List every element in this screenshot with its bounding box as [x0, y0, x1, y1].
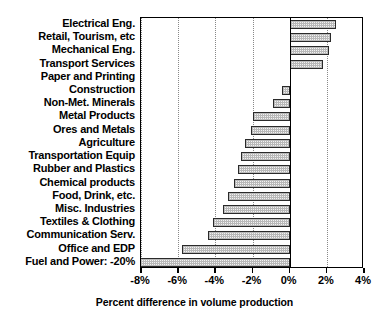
- x-tick-label: 0%: [269, 274, 309, 286]
- bar: [290, 20, 336, 29]
- bar-row: [141, 216, 362, 229]
- bar-row: [141, 256, 362, 267]
- bar-row: [141, 58, 362, 71]
- bar-row: [141, 243, 362, 256]
- category-label: Communication Serv.: [27, 228, 135, 241]
- x-tick-label: -4%: [194, 274, 234, 286]
- category-label: Chemical products: [39, 176, 135, 189]
- bar: [282, 86, 289, 95]
- bar-row: [141, 31, 362, 44]
- bar: [241, 152, 289, 161]
- x-tick-label: -2%: [232, 274, 272, 286]
- bar-row: [141, 190, 362, 203]
- bar-row: [141, 44, 362, 57]
- bar: [234, 179, 290, 188]
- bar: [223, 205, 290, 214]
- bar-row: [141, 71, 362, 84]
- bar: [290, 60, 323, 69]
- bar-row: [141, 177, 362, 190]
- bar: [273, 99, 290, 108]
- category-label: Transport Services: [40, 57, 135, 70]
- bar: [290, 33, 331, 42]
- bar-row: [141, 163, 362, 176]
- bar: [182, 245, 290, 254]
- category-label: Textiles & Clothing: [40, 215, 135, 228]
- category-label: Food, Drink, etc.: [52, 189, 135, 202]
- category-label: Fuel and Power: -20%: [25, 255, 135, 268]
- x-tick-label: 2%: [306, 274, 346, 286]
- x-tick-label: 4%: [343, 274, 383, 286]
- zero-axis-line: [290, 18, 292, 267]
- plot-area: [140, 17, 363, 268]
- category-label: Office and EDP: [58, 242, 135, 255]
- x-tick-mark: [326, 268, 328, 273]
- category-label: Rubber and Plastics: [33, 162, 135, 175]
- x-tick-label: -8%: [120, 274, 160, 286]
- category-label: Non-Met. Minerals: [44, 96, 135, 109]
- bar: [141, 258, 290, 267]
- category-label: Agriculture: [79, 136, 135, 149]
- category-label: Misc. Industries: [55, 202, 135, 215]
- x-tick-mark: [214, 268, 216, 273]
- x-tick-mark: [177, 268, 179, 273]
- bar-row: [141, 84, 362, 97]
- category-axis-labels: Electrical Eng.Retail, Tourism, etcMecha…: [0, 17, 138, 268]
- bar-row: [141, 229, 362, 242]
- x-tick-label: -6%: [157, 274, 197, 286]
- bar-row: [141, 18, 362, 31]
- category-label: Construction: [69, 83, 135, 96]
- bar: [228, 192, 289, 201]
- category-label: Paper and Printing: [41, 70, 135, 83]
- category-label: Electrical Eng.: [62, 17, 135, 30]
- x-axis-tick-labels: -8%-6%-4%-2%0%2%4%: [0, 274, 389, 290]
- bar-row: [141, 150, 362, 163]
- x-tick-mark: [289, 268, 291, 273]
- bar: [290, 46, 329, 55]
- bar: [245, 139, 290, 148]
- category-label: Metal Products: [59, 109, 135, 122]
- bar-chart-figure: Electrical Eng.Retail, Tourism, etcMecha…: [0, 0, 389, 322]
- category-label: Ores and Metals: [53, 123, 135, 136]
- category-label: Transportation Equip: [28, 149, 135, 162]
- bar-row: [141, 97, 362, 110]
- x-axis-title: Percent difference in volume production: [0, 296, 389, 308]
- category-label: Retail, Tourism, etc: [38, 30, 135, 43]
- bar-row: [141, 137, 362, 150]
- x-tick-mark: [140, 268, 142, 273]
- category-label: Mechanical Eng.: [52, 43, 135, 56]
- bar: [208, 231, 290, 240]
- bar: [213, 218, 289, 227]
- bar: [251, 126, 290, 135]
- bar-row: [141, 203, 362, 216]
- x-tick-mark: [252, 268, 254, 273]
- x-tick-mark: [363, 268, 365, 273]
- bar: [238, 165, 290, 174]
- bar-row: [141, 124, 362, 137]
- bar-row: [141, 110, 362, 123]
- bar: [253, 112, 290, 121]
- plot-clip-region: [141, 18, 362, 267]
